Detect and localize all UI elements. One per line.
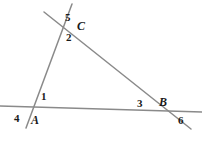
line-through-C-and-B (44, 12, 191, 129)
angle-label-4: 4 (14, 113, 20, 124)
vertex-label-C: C (77, 20, 85, 32)
horizontal-line-through-A-and-B (0, 106, 202, 112)
angle-label-3: 3 (137, 98, 143, 109)
angle-label-2: 2 (66, 32, 72, 43)
geometry-figure: 5 C 2 1 4 A 3 B 6 (0, 0, 202, 143)
vertex-label-B: B (159, 96, 167, 108)
angle-label-5: 5 (65, 12, 71, 23)
vertex-label-A: A (31, 114, 39, 126)
angle-label-6: 6 (178, 115, 184, 126)
angle-label-1: 1 (41, 91, 47, 102)
